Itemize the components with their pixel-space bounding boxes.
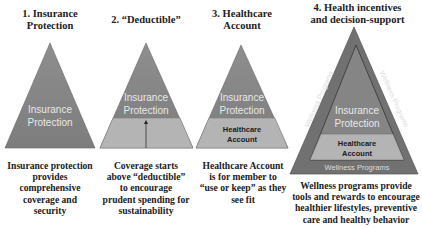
protection-label: Protection <box>334 118 379 129</box>
pyramid-1: Insurance Protection <box>5 43 95 148</box>
description-line: Coverage starts <box>96 160 196 171</box>
insurance-label: Insurance <box>124 92 168 103</box>
account-label: Account <box>227 135 258 144</box>
pyramid-2: Insurance Protection <box>100 43 193 148</box>
panel-1-description: Insurance protection provides comprehens… <box>0 160 100 216</box>
description-line: comprehensive <box>0 182 100 193</box>
description-line: security <box>0 205 100 216</box>
insurance-label: Insurance <box>335 105 379 116</box>
insurance-label: Insurance <box>220 92 264 103</box>
description-line: Healthcare Account <box>193 160 293 171</box>
description-line: healthier lifestyles, preventive <box>290 202 422 213</box>
description-line: is for member to <box>193 171 293 182</box>
description-line: tools and rewards to encourage <box>290 191 422 202</box>
insurance-label: Insurance <box>28 104 72 115</box>
description-line: Insurance protection <box>0 160 100 171</box>
pyramid-3: Insurance Protection Healthcare Account <box>196 45 288 148</box>
description-line: see fit <box>193 194 293 205</box>
description-line: provides <box>0 171 100 182</box>
account-label: Account <box>342 149 373 158</box>
description-line: above “deductible” <box>96 171 196 182</box>
panel-4-description: Wellness programs provide tools and rewa… <box>290 180 422 225</box>
protection-label: Protection <box>219 105 264 116</box>
description-line: coverage and <box>0 194 100 205</box>
pyramid-4: Insurance Protection Healthcare Account … <box>290 27 418 174</box>
panel-3-description: Healthcare Account is for member to “use… <box>193 160 293 205</box>
description-line: sustainability <box>96 205 196 216</box>
healthcare-label: Healthcare <box>338 139 376 148</box>
description-line: to encourage <box>96 182 196 193</box>
description-line: “use or keep” as they <box>193 182 293 193</box>
description-line: prudent spending for <box>96 194 196 205</box>
description-line: care and healthy behavior <box>290 214 422 225</box>
healthcare-label: Healthcare <box>223 125 261 134</box>
protection-label: Protection <box>123 105 168 116</box>
description-line: Wellness programs provide <box>290 180 422 191</box>
panel-2-description: Coverage starts above “deductible” to en… <box>96 160 196 216</box>
protection-label: Protection <box>27 117 72 128</box>
wellness-programs-bottom-label: Wellness Programs <box>325 163 390 172</box>
